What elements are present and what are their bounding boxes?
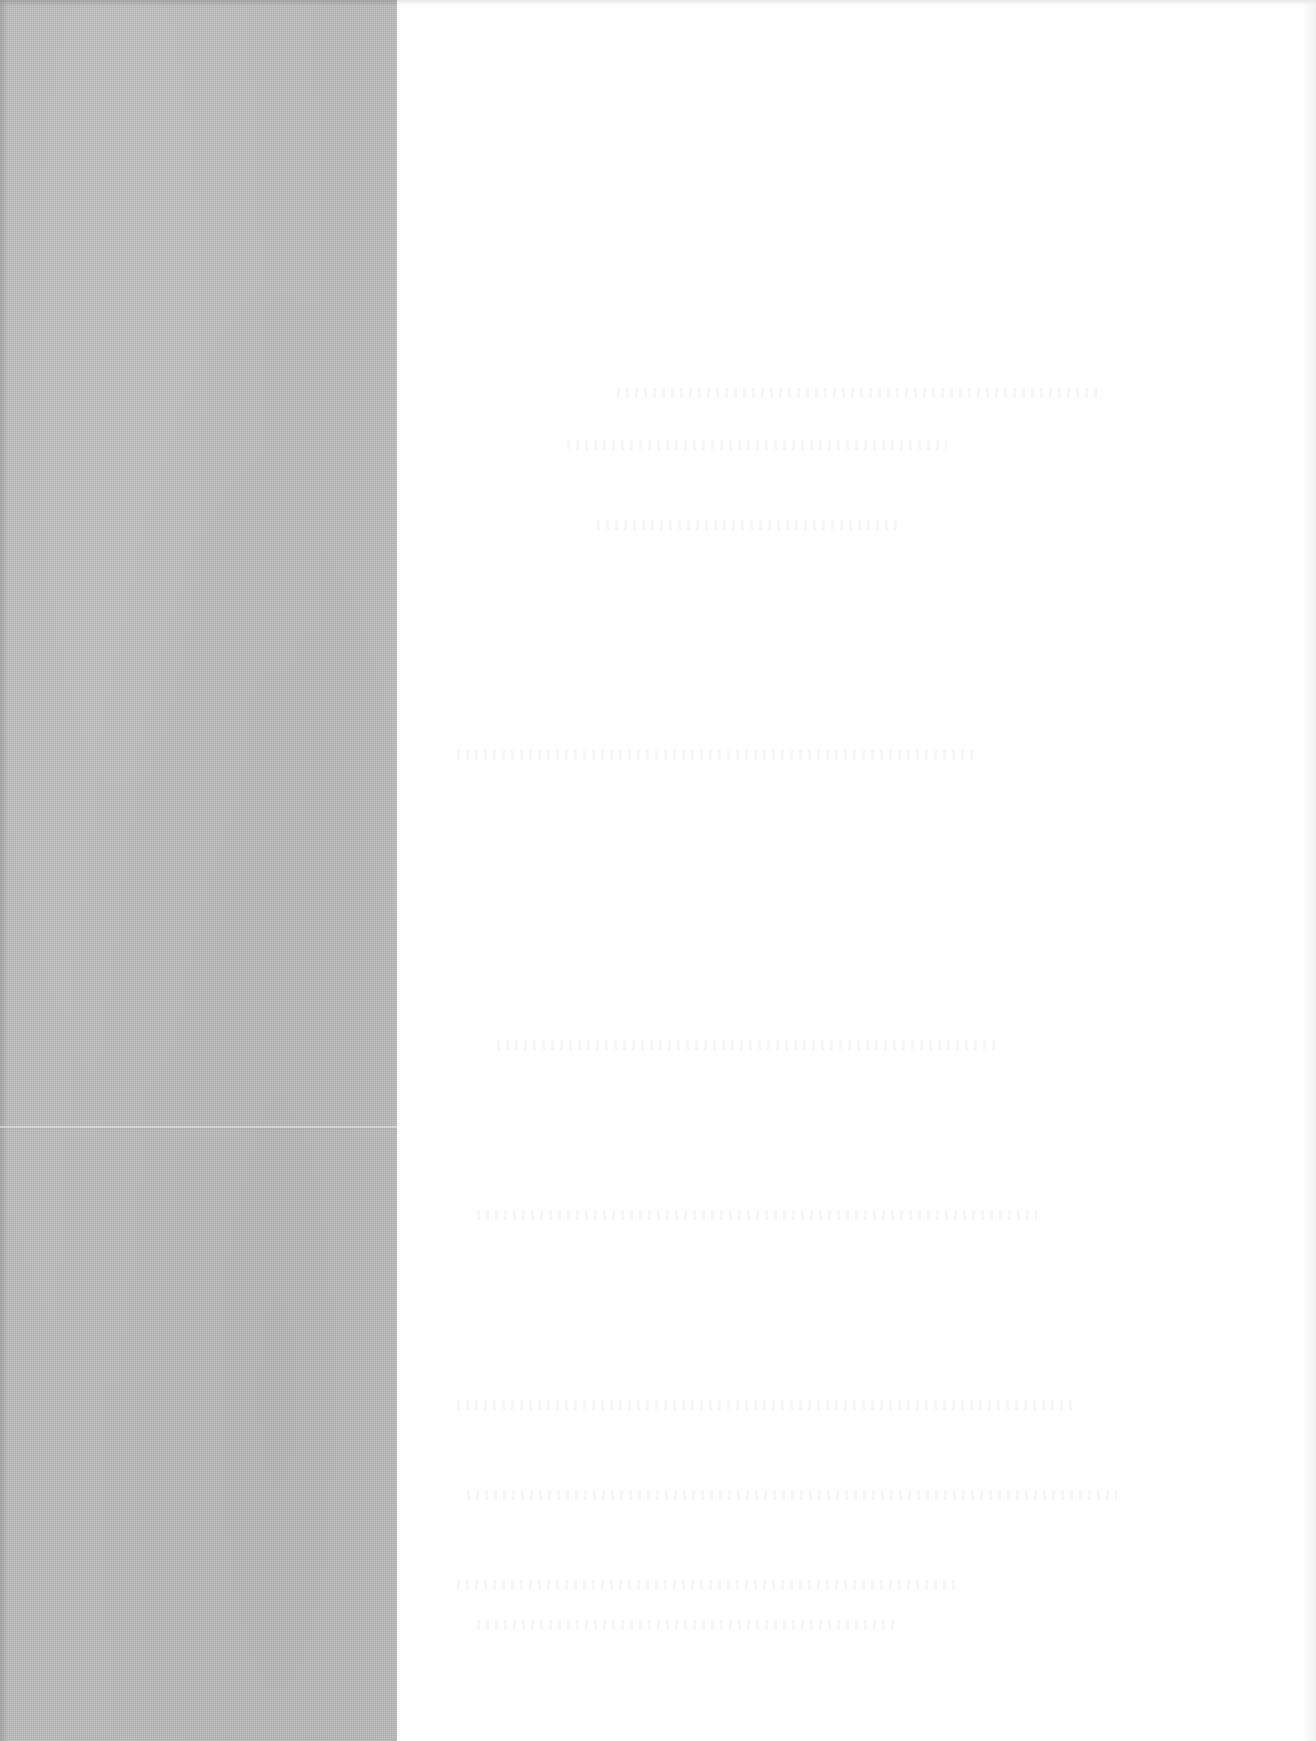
strip-top-shadow — [0, 0, 397, 6]
fold-line-shadow — [0, 1128, 397, 1129]
bleed-through-mark — [477, 1620, 897, 1630]
bleed-through-mark — [477, 1210, 1037, 1220]
paper-right-shadow — [1302, 0, 1316, 1741]
bleed-through-mark — [457, 750, 977, 760]
bleed-through-mark — [597, 520, 897, 530]
bleed-through-mark — [617, 388, 1097, 398]
bleed-through-mark — [567, 440, 947, 450]
bleed-through-mark — [457, 1400, 1077, 1410]
paper-top-shadow — [397, 0, 1316, 5]
strip-left-shadow — [0, 0, 8, 1741]
bleed-through-mark — [457, 1580, 957, 1590]
bleed-through-mark — [467, 1490, 1117, 1500]
bleed-through-mark — [497, 1040, 997, 1050]
blank-paper-sheet — [397, 0, 1316, 1741]
scanned-page — [0, 0, 1316, 1741]
gray-backing-strip — [0, 0, 397, 1741]
